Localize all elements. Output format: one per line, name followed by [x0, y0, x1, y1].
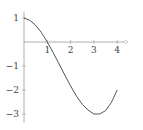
data-series	[24, 18, 117, 114]
x-tick-label: 4	[114, 45, 120, 55]
y-tick-label: −2	[6, 85, 19, 95]
line-chart: 12341−1−2−3	[0, 0, 143, 130]
x-tick-label: 3	[91, 45, 97, 55]
axes	[24, 12, 128, 123]
y-tick-label: 1	[13, 13, 19, 23]
series-line	[24, 18, 117, 114]
x-tick-label: 2	[68, 45, 74, 55]
y-tick-label: −3	[6, 109, 20, 119]
ticks: 12341−1−2−3	[6, 13, 121, 119]
x-axis-arrow-icon	[125, 40, 128, 44]
y-tick-label: −1	[6, 61, 19, 71]
